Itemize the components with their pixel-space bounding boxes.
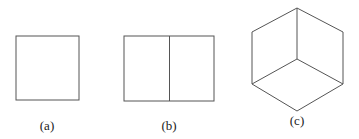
figure-a-label: (a) [40, 118, 54, 134]
figure-b-rectangle [124, 36, 214, 101]
figure-c-label: (c) [290, 113, 304, 129]
figure-a-square [16, 36, 79, 100]
figure-b-label: (b) [161, 118, 176, 134]
figure-c-cube [252, 8, 343, 111]
